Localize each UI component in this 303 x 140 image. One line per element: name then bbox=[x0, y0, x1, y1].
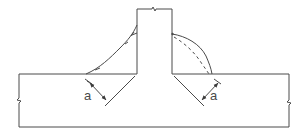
base-plate bbox=[17, 74, 291, 127]
left-throat-label: a bbox=[84, 89, 91, 102]
left-concave-weld bbox=[86, 25, 137, 74]
left-throat-dimension bbox=[85, 76, 135, 106]
right-convex-weld bbox=[172, 33, 212, 74]
weld-diagram-svg bbox=[0, 0, 303, 140]
theoretical-weld-outline bbox=[174, 37, 209, 74]
web-plate bbox=[137, 7, 172, 74]
weld-diagram: a a bbox=[0, 0, 303, 140]
right-throat-label: a bbox=[210, 89, 217, 102]
